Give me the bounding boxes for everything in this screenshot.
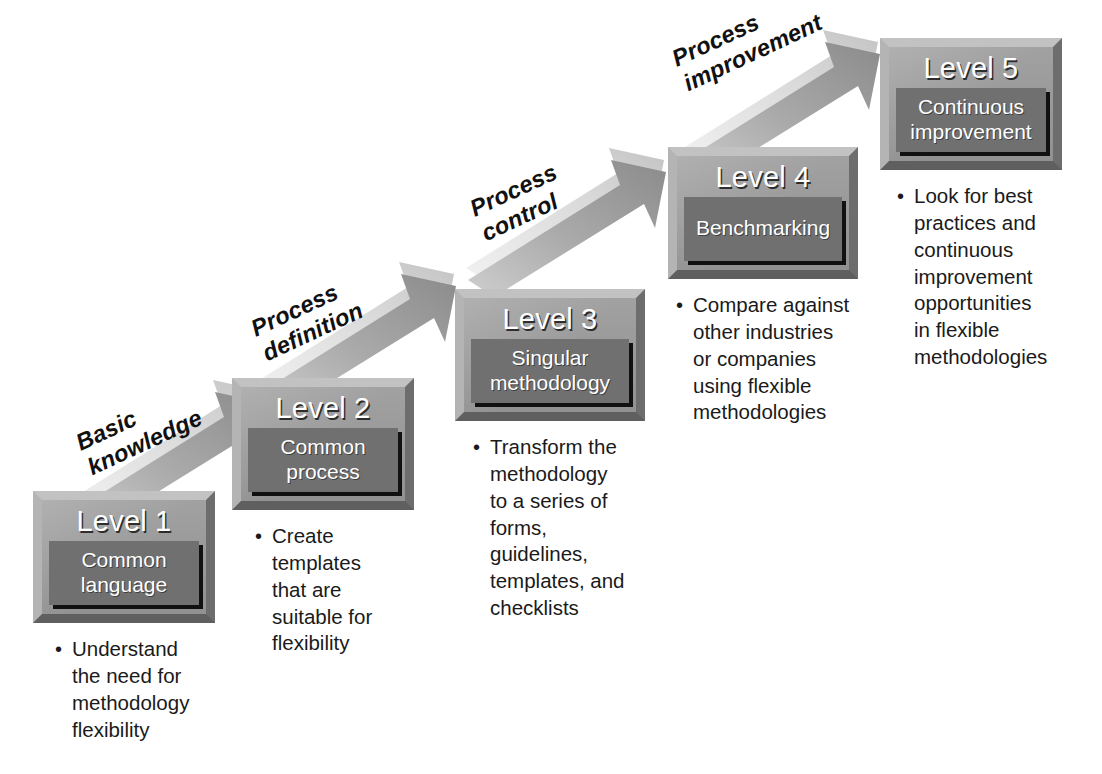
level-subtitle-line: Singular: [479, 346, 621, 371]
bullet-line: forms,: [490, 515, 658, 542]
bullet-line: methodologies: [693, 399, 876, 426]
bullet-line: Look for best: [914, 183, 1087, 210]
bullet-line: methodology: [72, 690, 230, 717]
level-box-1[interactable]: Level 1 Common language: [33, 491, 215, 623]
level-subtitle: Benchmarking: [684, 197, 842, 261]
bullet-line: the need for: [72, 663, 230, 690]
bullet-item: • Compare against other industries or co…: [676, 292, 876, 426]
level-subtitle: Continuous improvement: [896, 88, 1046, 153]
level-box-5[interactable]: Level 5 Continuous improvement: [880, 38, 1062, 170]
bullet-line: that are: [272, 577, 430, 604]
level-subtitle-line: improvement: [904, 120, 1038, 145]
bullet-line: Transform the: [490, 434, 658, 461]
bullet-dot-icon: •: [255, 523, 272, 549]
level-title: Level 2: [248, 392, 398, 428]
bullet-line: or companies: [693, 346, 876, 373]
level-box-3[interactable]: Level 3 Singular methodology: [455, 289, 645, 421]
bullet-line: continuous: [914, 237, 1087, 264]
level-subtitle-line: Continuous: [904, 95, 1038, 120]
bullet-line: methodologies: [914, 344, 1087, 371]
bullet-line: Understand: [72, 636, 230, 663]
bullet-text: Transform the methodology to a series of…: [490, 434, 658, 622]
bullet-text: Compare against other industries or comp…: [693, 292, 876, 426]
maturity-model-diagram: Basic knowledge Process definition Proce…: [0, 0, 1102, 774]
bullet-line: flexibility: [272, 630, 430, 657]
bullet-line: suitable for: [272, 604, 430, 631]
level-subtitle: Common language: [49, 541, 199, 606]
bullet-line: checklists: [490, 595, 658, 622]
level-bullets-3: • Transform the methodology to a series …: [473, 434, 658, 622]
level-subtitle-line: Benchmarking: [692, 216, 834, 241]
transition-label-process-improvement: Process improvement: [668, 0, 826, 97]
bullet-line: methodology: [490, 461, 658, 488]
level-subtitle-line: language: [57, 573, 191, 598]
bullet-line: in flexible: [914, 317, 1087, 344]
bullet-item: • Create templates that are suitable for…: [255, 523, 430, 657]
bullet-line: templates: [272, 550, 430, 577]
bullet-line: guidelines,: [490, 541, 658, 568]
level-title: Level 5: [896, 52, 1046, 88]
bullet-line: improvement: [914, 264, 1087, 291]
bullet-line: opportunities: [914, 290, 1087, 317]
bullet-line: Compare against: [693, 292, 876, 319]
level-bullets-2: • Create templates that are suitable for…: [255, 523, 430, 657]
level-bullets-5: • Look for best practices and continuous…: [897, 183, 1087, 371]
level-subtitle-line: Common: [57, 548, 191, 573]
level-box-2[interactable]: Level 2 Common process: [232, 378, 414, 510]
level-bullets-4: • Compare against other industries or co…: [676, 292, 876, 426]
bullet-dot-icon: •: [473, 434, 490, 460]
bullet-line: flexibility: [72, 717, 230, 744]
bullet-text: Create templates that are suitable for f…: [272, 523, 430, 657]
bullet-item: • Understand the need for methodology fl…: [55, 636, 230, 743]
bullet-dot-icon: •: [55, 636, 72, 662]
level-box-4[interactable]: Level 4 Benchmarking: [668, 147, 858, 279]
level-subtitle: Common process: [248, 428, 398, 493]
transition-label-process-control: Process control: [466, 159, 573, 247]
bullet-dot-icon: •: [676, 292, 693, 318]
bullet-text: Look for best practices and continuous i…: [914, 183, 1087, 371]
level-subtitle-line: Common: [256, 435, 390, 460]
level-title: Level 3: [471, 303, 629, 339]
bullet-item: • Look for best practices and continuous…: [897, 183, 1087, 371]
level-subtitle-line: process: [256, 460, 390, 485]
transition-label-basic-knowledge: Basic knowledge: [72, 380, 206, 481]
bullet-line: Create: [272, 523, 430, 550]
level-bullets-1: • Understand the need for methodology fl…: [55, 636, 230, 743]
level-subtitle: Singular methodology: [471, 339, 629, 404]
bullet-text: Understand the need for methodology flex…: [72, 636, 230, 743]
transition-label-process-definition: Process definition: [247, 272, 367, 366]
level-title: Level 1: [49, 505, 199, 541]
bullet-line: using flexible: [693, 373, 876, 400]
bullet-item: • Transform the methodology to a series …: [473, 434, 658, 622]
level-title: Level 4: [684, 161, 842, 197]
bullet-dot-icon: •: [897, 183, 914, 209]
bullet-line: to a series of: [490, 488, 658, 515]
level-subtitle-line: methodology: [479, 371, 621, 396]
bullet-line: templates, and: [490, 568, 658, 595]
bullet-line: practices and: [914, 210, 1087, 237]
bullet-line: other industries: [693, 319, 876, 346]
